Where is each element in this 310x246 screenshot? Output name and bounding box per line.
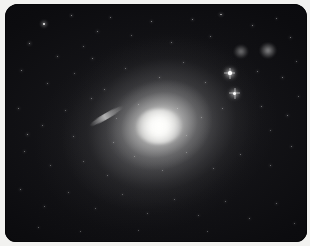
- photo-frame: Giant elliptical galaxy with surrounding…: [0, 0, 310, 246]
- astronomical-image-plate: [5, 4, 307, 242]
- night-sky-background: [5, 4, 307, 242]
